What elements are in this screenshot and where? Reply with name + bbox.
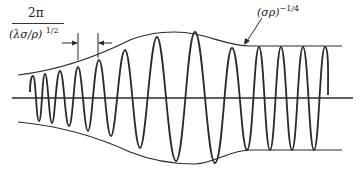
envelope-base: (σρ): [257, 6, 280, 19]
envelope-pointer-head: [244, 38, 250, 45]
denominator-exponent: 1/2: [46, 26, 59, 35]
envelope-exponent: −1/4: [280, 4, 300, 13]
fraction-bar: [12, 23, 64, 24]
wavelength-numerator: 2π: [28, 6, 44, 20]
denominator-base: (λσ/ρ): [9, 28, 42, 41]
wavelength-denominator: (λσ/ρ) 1/2: [9, 26, 59, 41]
upper-envelope: [18, 32, 342, 75]
envelope-amplitude-label: (σρ)−1/4: [257, 4, 299, 19]
envelope-pointer-shaft: [247, 18, 262, 41]
dimension-arrow-right-head: [98, 41, 104, 46]
dimension-arrow-left-head: [72, 41, 78, 46]
